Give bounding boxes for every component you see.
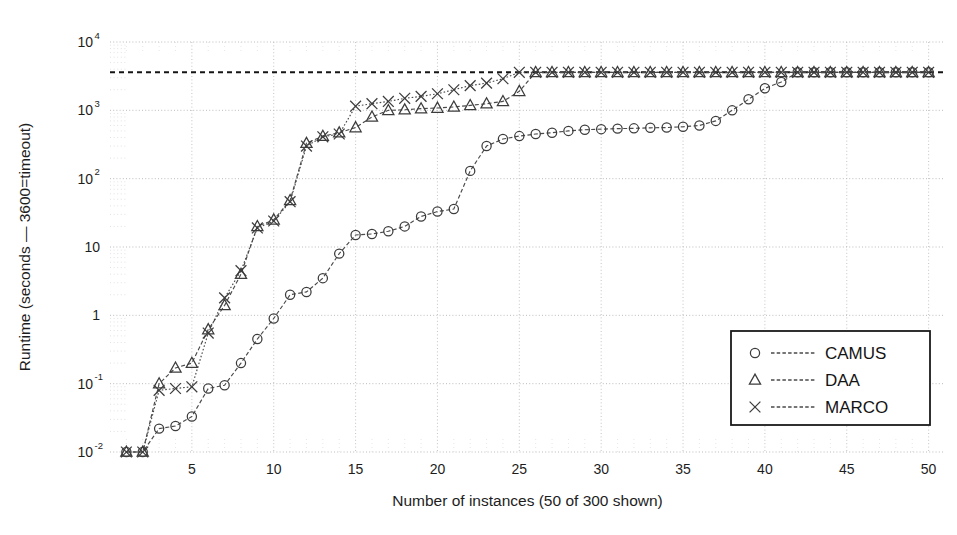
svg-text:4: 4 xyxy=(95,30,100,41)
y-tick-label: 10 xyxy=(84,239,100,255)
svg-text:10: 10 xyxy=(77,34,93,50)
y-tick-label: 10-1 xyxy=(77,371,103,392)
x-tick-label: 40 xyxy=(757,461,773,477)
data-point-circle xyxy=(318,274,327,283)
data-point-triangle xyxy=(350,122,361,132)
data-point-triangle xyxy=(415,103,426,113)
x-tick-label: 50 xyxy=(921,461,937,477)
svg-text:-2: -2 xyxy=(95,440,103,451)
runtime-cactus-plot: 510152025303540455010-210-1110102103104 … xyxy=(0,0,957,535)
data-point-circle xyxy=(204,384,213,393)
legend-label: MARCO xyxy=(825,398,888,417)
x-axis-title: Number of instances (50 of 300 shown) xyxy=(392,492,663,509)
data-point-circle xyxy=(744,95,753,104)
data-point-triangle xyxy=(465,100,476,110)
svg-text:2: 2 xyxy=(95,166,100,177)
y-tick-label: 10-2 xyxy=(77,440,103,461)
data-point-triangle xyxy=(399,104,410,114)
chart-container: 510152025303540455010-210-1110102103104 … xyxy=(0,0,957,535)
y-tick-label: 104 xyxy=(77,30,99,51)
data-point-circle xyxy=(760,84,769,93)
svg-text:10: 10 xyxy=(77,171,93,187)
svg-text:3: 3 xyxy=(95,98,100,109)
y-tick-label: 102 xyxy=(77,166,99,187)
x-tick-label: 25 xyxy=(512,461,528,477)
x-tick-label: 10 xyxy=(266,461,282,477)
legend-label: DAA xyxy=(825,371,861,390)
legend-label: CAMUS xyxy=(825,344,886,363)
x-tick-label: 15 xyxy=(348,461,364,477)
svg-text:10: 10 xyxy=(77,444,93,460)
data-point-circle xyxy=(416,212,425,221)
data-point-triangle xyxy=(170,362,181,372)
y-tick-label: 103 xyxy=(77,98,99,119)
svg-text:1: 1 xyxy=(92,307,100,323)
svg-text:10: 10 xyxy=(77,376,93,392)
x-tick-label: 5 xyxy=(188,461,196,477)
x-tick-label: 30 xyxy=(593,461,609,477)
x-tick-label: 20 xyxy=(430,461,446,477)
svg-text:10: 10 xyxy=(84,239,100,255)
y-tick-label: 1 xyxy=(92,307,100,323)
legend[interactable]: CAMUSDAAMARCO xyxy=(731,331,930,425)
y-axis-title: Runtime (seconds — 3600=timeout) xyxy=(16,123,33,372)
data-point-triangle xyxy=(366,111,377,121)
data-point-circle xyxy=(466,166,475,175)
svg-text:-1: -1 xyxy=(95,371,103,382)
data-point-circle xyxy=(400,222,409,231)
data-point-circle xyxy=(728,106,737,115)
x-tick-label: 35 xyxy=(675,461,691,477)
x-tick-label: 45 xyxy=(839,461,855,477)
data-point-triangle xyxy=(497,96,508,106)
svg-text:10: 10 xyxy=(77,102,93,118)
